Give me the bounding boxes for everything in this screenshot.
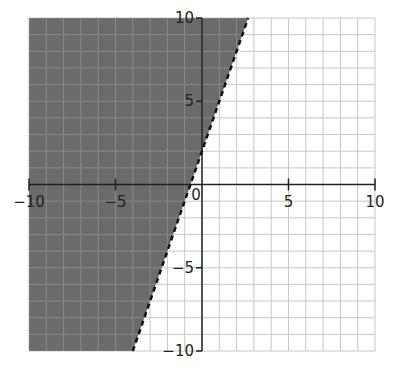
x-tick-label: 0 <box>191 186 201 204</box>
inequality-graph: −10−50510105−5−10 <box>0 0 393 368</box>
x-tick-label: 10 <box>365 193 384 211</box>
x-tick-label: 5 <box>284 193 294 211</box>
x-tick-label: −5 <box>104 193 126 211</box>
y-tick-label: 5 <box>184 92 194 110</box>
y-tick-label: −10 <box>162 342 194 360</box>
x-tick-label: −10 <box>13 193 45 211</box>
y-tick-label: 10 <box>175 9 194 27</box>
y-tick-label: −5 <box>172 259 194 277</box>
